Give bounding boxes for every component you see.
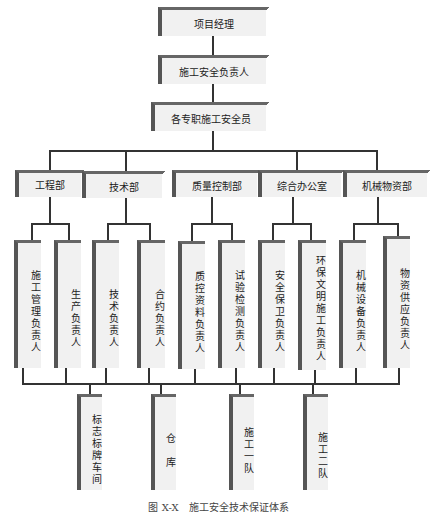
connector-line [160,383,162,394]
connector-line [212,130,214,151]
role-label: 安全保卫负责人 [271,270,285,354]
box-label: 综合办公室 [277,178,327,193]
role-box: 合约负责人 [137,240,165,368]
connector-line [105,368,107,384]
connector-line [148,368,150,384]
unit-label: 标志标牌车间 [88,414,102,486]
unit-box: 仓 库 [151,394,176,490]
box-label: 施工安全负责人 [179,64,249,79]
connector-line [194,368,196,384]
connector-line [353,223,399,225]
connector-line [353,223,355,241]
connector-line [49,197,51,223]
role-box: 质控资料负责人 [178,241,205,369]
role-box: 物资供应负责人 [383,236,410,368]
connector-line [68,223,70,241]
box-label: 各专职施工安全员 [171,111,251,126]
connector-line [296,150,298,172]
role-box: 施工管理负责人 [14,240,41,368]
role-label: 合约负责人 [151,289,165,349]
role-box: 生产负责人 [54,240,81,368]
unit-label: 施工二队 [314,432,328,480]
connector-line [31,223,33,241]
connector-line [149,223,151,241]
role-box: 机械设备负责人 [339,240,366,368]
role-label: 物资供应负责人 [396,268,410,352]
connector-line [231,223,233,241]
role-label: 机械设备负责人 [352,270,366,354]
role-box: 试验检测负责人 [218,240,245,368]
connector-line [212,84,214,103]
unit-label: 施工一队 [240,427,254,475]
connector-line [107,223,109,241]
connector-line [211,197,213,223]
connector-line [355,368,357,384]
dept-technical: 技术部 [82,171,162,198]
role-label: 生产负责人 [67,289,81,349]
role-label: 质控资料负责人 [191,271,205,355]
connector-line [377,197,379,223]
role-label: 试验检测负责人 [231,270,245,354]
figure-caption: 图 X-X 施工安全技术保证体系 [0,499,437,514]
connector-line [65,368,67,384]
connector-line [235,368,237,384]
role-label: 技术负责人 [105,289,119,349]
connector-line [310,223,312,241]
connector-line [272,223,274,241]
connector-line [239,383,241,394]
connector-line [31,223,70,225]
connector-line [22,368,24,384]
connector-line [273,368,275,384]
role-box: 技术负责人 [92,240,119,368]
connector-line [272,223,312,225]
connector-line [191,223,193,241]
role-box: 环保文明施工负责人 [298,240,326,370]
connector-line [107,223,151,225]
dept-bus-line [49,150,378,152]
box-safety-officers: 各专职施工安全员 [151,102,266,131]
connector-line [212,36,214,56]
box-label: 技术部 [109,179,139,194]
connector-line [312,383,314,394]
box-label: 质量控制部 [192,178,242,193]
unit-box: 施工二队 [303,394,328,490]
dept-general-office: 综合办公室 [258,170,341,197]
connector-line [49,150,51,172]
box-label: 工程部 [35,177,65,192]
unit-box: 标志标牌车间 [77,394,102,490]
box-safety-lead: 施工安全负责人 [158,55,266,84]
connector-line [89,383,91,394]
bottom-bus-line [22,383,400,385]
box-label: 机械物资部 [362,178,412,193]
connector-line [125,150,127,172]
role-label: 施工管理负责人 [27,270,41,354]
connector-line [398,368,400,384]
connector-line [292,197,294,223]
box-project-manager: 项目经理 [158,7,266,36]
role-label: 环保文明施工负责人 [312,255,326,363]
dept-engineering: 工程部 [15,170,81,197]
connector-line [125,197,127,223]
dept-machinery-materials: 机械物资部 [343,170,427,197]
role-box: 安全保卫负责人 [258,240,285,368]
dept-quality-control: 质量控制部 [172,170,257,197]
connector-line [191,223,233,225]
unit-label: 仓 库 [162,433,176,469]
connector-line [376,150,378,172]
box-label: 项目经理 [194,16,234,31]
unit-box: 施工一队 [229,394,254,490]
connector-line [314,368,316,384]
